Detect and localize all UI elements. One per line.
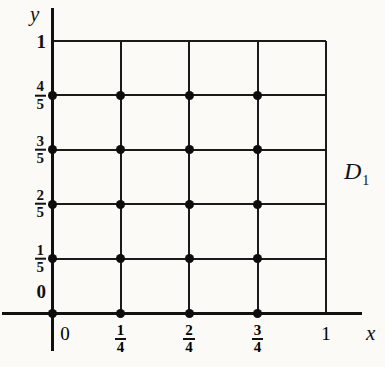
lattice-point — [185, 91, 194, 100]
gridline-vertical — [188, 41, 190, 313]
lattice-point — [185, 145, 194, 154]
region-label-subscript: 1 — [361, 173, 369, 188]
x-tick-label: 24 — [159, 323, 219, 356]
y-axis-line — [51, 8, 54, 351]
lattice-point — [253, 145, 262, 154]
lattice-point — [48, 309, 57, 318]
x-tick-label: 34 — [228, 323, 288, 356]
lattice-point — [116, 309, 125, 318]
x-tick-label: 14 — [91, 323, 151, 356]
lattice-point — [116, 200, 125, 209]
y-tick-label: 25 — [0, 204, 46, 237]
x-tick-label: 0 — [35, 323, 95, 345]
y-tick-label: 35 — [0, 150, 46, 183]
y-tick-label: 1 — [0, 41, 46, 60]
y-tick-label: 15 — [0, 259, 46, 292]
lattice-point — [48, 91, 57, 100]
lattice-point — [253, 254, 262, 263]
lattice-point — [116, 145, 125, 154]
gridline-vertical — [257, 41, 259, 313]
lattice-point — [48, 145, 57, 154]
x-tick-label: 1 — [296, 323, 356, 345]
gridline-vertical — [120, 41, 122, 313]
y-tick-label: 45 — [0, 95, 46, 128]
lattice-point — [48, 200, 57, 209]
gridline-horizontal — [52, 40, 326, 42]
y-axis-name: y — [30, 2, 39, 27]
lattice-point — [253, 200, 262, 209]
lattice-point — [185, 254, 194, 263]
region-label-d1: D1 — [344, 158, 369, 189]
gridline-vertical — [325, 41, 327, 313]
lattice-point — [48, 254, 57, 263]
lattice-point — [253, 91, 262, 100]
lattice-point — [116, 91, 125, 100]
lattice-point — [185, 200, 194, 209]
lattice-grid-figure: 015253545101424341 y x D1 — [0, 0, 385, 367]
lattice-point — [116, 254, 125, 263]
x-axis-name: x — [366, 321, 375, 346]
y-tick-label: 0 — [0, 291, 46, 310]
region-label-letter: D — [344, 158, 361, 184]
lattice-point — [185, 309, 194, 318]
lattice-point — [253, 309, 262, 318]
